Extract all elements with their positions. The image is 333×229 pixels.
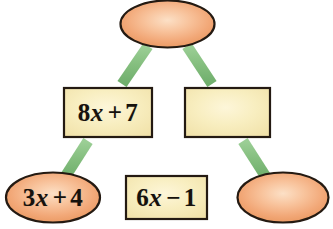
connector-top-to-left-rect: [122, 46, 148, 84]
connector-right-rect-to-bottom-right-oval: [243, 141, 266, 177]
left-rectangle-node[interactable]: [64, 88, 152, 137]
bottom-left-oval-node[interactable]: [6, 173, 100, 223]
diagram-graphics: [0, 0, 333, 229]
node-group: [6, 1, 329, 223]
connector-left-rect-to-bottom-left-oval: [65, 141, 88, 177]
connector-top-to-right-rect: [187, 46, 212, 84]
diagram-canvas: 8x+7 3x+4 6x−1: [0, 0, 333, 229]
bottom-right-oval-node[interactable]: [238, 173, 329, 223]
top-oval-node[interactable]: [121, 1, 215, 48]
right-rectangle-node[interactable]: [185, 88, 270, 137]
bottom-rectangle-node[interactable]: [126, 176, 207, 219]
